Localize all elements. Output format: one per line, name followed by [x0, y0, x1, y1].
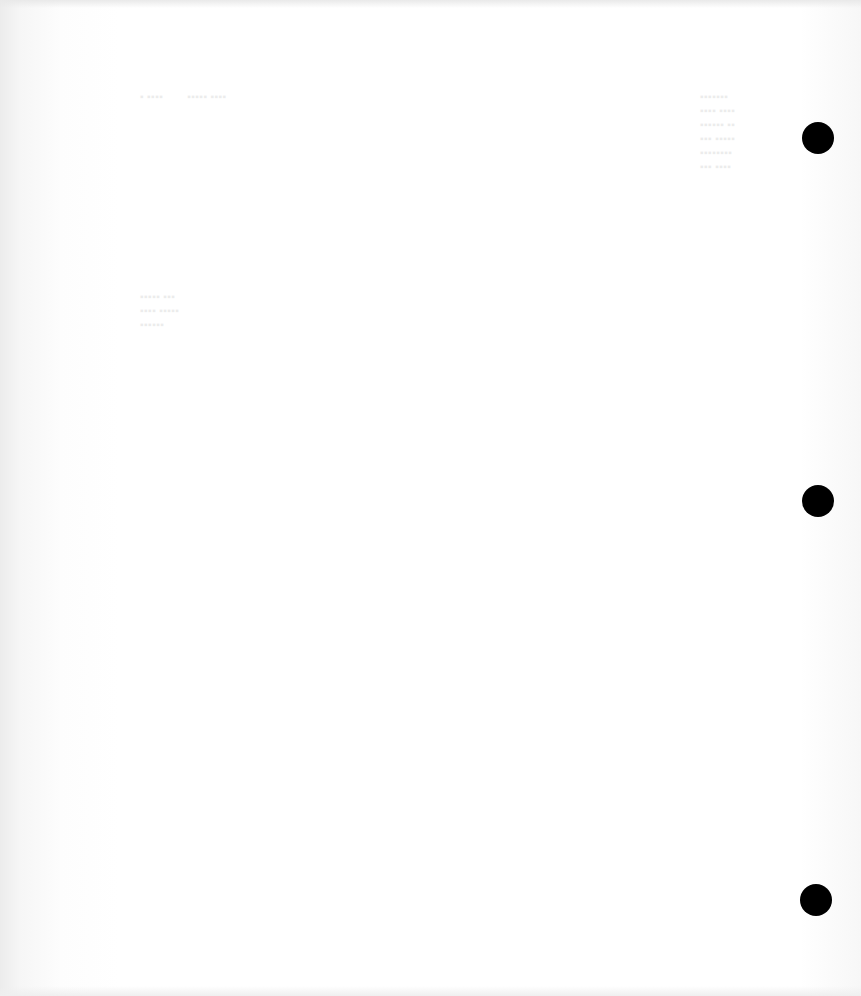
scan-bottom-edge-shadow	[0, 986, 861, 996]
scanned-page: ▪ ▪▪▪▪ ▪▪▪▪▪ ▪▪▪▪ ▪▪▪▪▪ ▪▪▪ ▪▪▪▪ ▪▪▪▪▪ ▪…	[0, 0, 861, 996]
punch-hole-top	[802, 122, 834, 154]
scan-top-edge-shadow	[0, 0, 861, 8]
bleed-through-text: ▪▪▪▪▪▪▪ ▪▪▪▪ ▪▪▪▪ ▪▪▪▪▪▪ ▪▪ ▪▪▪ ▪▪▪▪▪ ▪▪…	[700, 90, 735, 174]
bleed-through-text: ▪▪▪▪▪ ▪▪▪ ▪▪▪▪ ▪▪▪▪▪ ▪▪▪▪▪▪	[140, 290, 179, 332]
bleed-through-text: ▪ ▪▪▪▪ ▪▪▪▪▪ ▪▪▪▪	[140, 90, 227, 104]
punch-hole-middle	[802, 485, 834, 517]
punch-hole-bottom	[800, 884, 832, 916]
